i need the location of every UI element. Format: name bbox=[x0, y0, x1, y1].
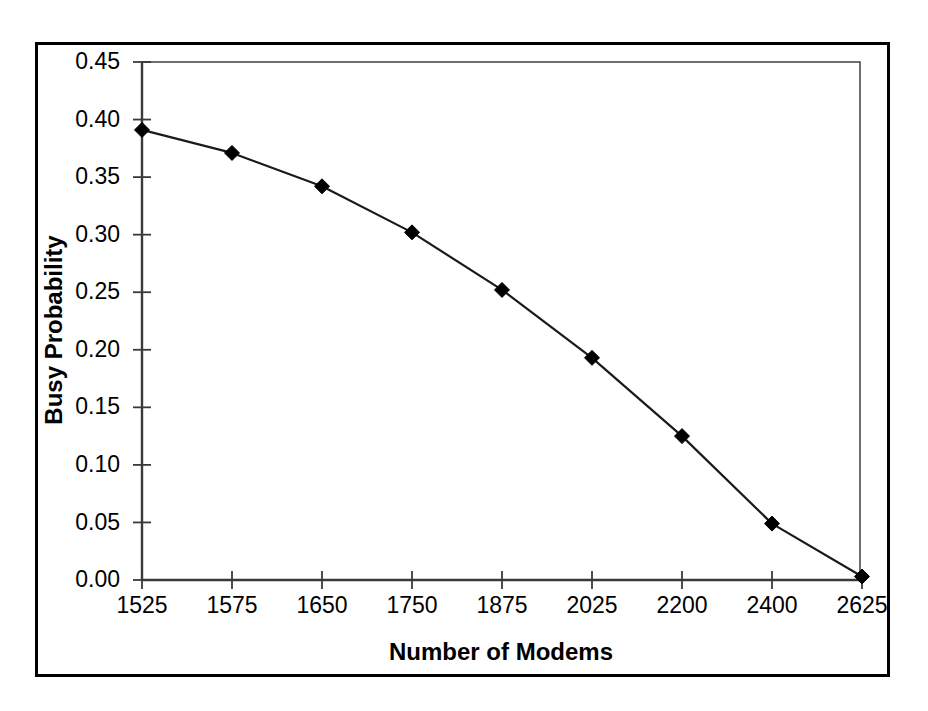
y-tick-label: 0.30 bbox=[75, 221, 120, 247]
y-tick-label: 0.05 bbox=[75, 509, 120, 535]
y-axis-tick-labels: 0.450.400.350.300.250.200.150.100.050.00 bbox=[75, 48, 120, 592]
x-tick-label: 2200 bbox=[656, 592, 707, 618]
x-tick-label: 1525 bbox=[116, 592, 167, 618]
x-axis-title: Number of Modems bbox=[389, 638, 613, 665]
x-tick-label: 2025 bbox=[566, 592, 617, 618]
y-tick-label: 0.00 bbox=[75, 566, 120, 592]
x-tick-label: 1650 bbox=[296, 592, 347, 618]
x-axis-tick-labels: 152515751650175018752025220024002625 bbox=[116, 592, 887, 618]
y-tick-label: 0.45 bbox=[75, 48, 120, 74]
x-tick-label: 2625 bbox=[836, 592, 887, 618]
y-tick-label: 0.15 bbox=[75, 393, 120, 419]
chart-figure: 0.450.400.350.300.250.200.150.100.050.00… bbox=[0, 0, 928, 711]
y-tick-label: 0.20 bbox=[75, 336, 120, 362]
y-tick-label: 0.25 bbox=[75, 278, 120, 304]
y-tick-label: 0.40 bbox=[75, 106, 120, 132]
x-tick-label: 2400 bbox=[746, 592, 797, 618]
y-tick-label: 0.10 bbox=[75, 451, 120, 477]
y-axis-title: Busy Probability bbox=[40, 235, 67, 425]
x-tick-label: 1750 bbox=[386, 592, 437, 618]
x-tick-label: 1875 bbox=[476, 592, 527, 618]
x-tick-label: 1575 bbox=[206, 592, 257, 618]
plot-area-frame bbox=[142, 62, 860, 580]
line-chart: 0.450.400.350.300.250.200.150.100.050.00… bbox=[0, 0, 928, 711]
y-tick-label: 0.35 bbox=[75, 163, 120, 189]
